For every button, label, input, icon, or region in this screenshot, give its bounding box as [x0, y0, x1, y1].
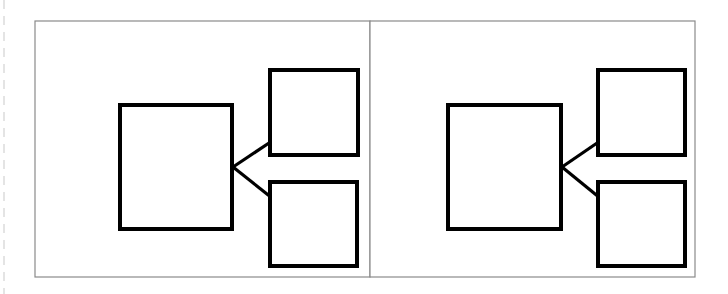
panel-right[interactable] — [370, 21, 695, 277]
panel-right-child-bottom-block[interactable] — [598, 182, 685, 266]
figure-canvas — [0, 0, 728, 294]
panel-right-main-block[interactable] — [448, 105, 561, 229]
panel-left-child-top-block[interactable] — [270, 70, 358, 155]
panel-right-child-top-block[interactable] — [598, 70, 685, 155]
figure-svg — [0, 0, 728, 294]
panel-left[interactable] — [35, 21, 370, 277]
panel-left-child-bottom-block[interactable] — [270, 182, 357, 266]
panel-left-main-block[interactable] — [120, 105, 232, 229]
